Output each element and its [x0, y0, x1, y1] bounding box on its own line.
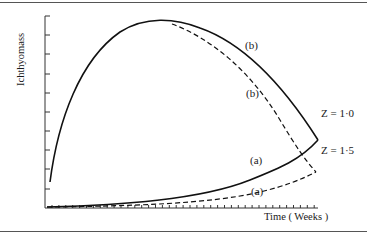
curve-a-solid	[47, 140, 318, 207]
chart-plot	[0, 0, 367, 234]
label-a-solid: (a)	[250, 155, 262, 166]
label-b-dashed: (b)	[246, 88, 259, 99]
curve-a-dashed	[47, 172, 316, 207]
y-axis-label: Ichthyomass	[15, 33, 26, 86]
y-axis	[45, 16, 50, 208]
x-axis-label: Time ( Weeks )	[264, 212, 328, 223]
curve-b-solid	[50, 20, 318, 182]
label-b-solid: (b)	[245, 40, 258, 51]
label-a-dashed: (a)	[251, 186, 263, 197]
label-z10: Z = 1·0	[321, 108, 354, 119]
label-z15: Z = 1·5	[321, 145, 354, 156]
curve-b-dashed	[172, 24, 316, 172]
